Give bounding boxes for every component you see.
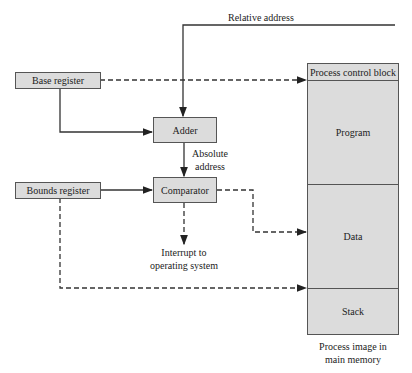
base-register-box: Base register (15, 72, 101, 89)
segment-program: Program (308, 80, 398, 184)
process-image-memory: Process control block Program Data Stack (307, 63, 399, 335)
comparator-box: Comparator (153, 177, 217, 203)
comparator-label: Comparator (161, 185, 209, 196)
adder-label: Adder (173, 125, 198, 136)
base-register-label: Base register (32, 75, 84, 86)
bounds-register-label: Bounds register (26, 185, 89, 196)
bounds-register-box: Bounds register (15, 182, 101, 199)
segment-stack: Stack (308, 288, 398, 334)
interrupt-label: Interrupt to operating system (134, 246, 234, 272)
memory-caption: Process image in main memory (307, 340, 399, 366)
absolute-address-label: Absolute address (188, 147, 232, 173)
adder-box: Adder (153, 117, 217, 143)
relative-address-label: Relative address (228, 11, 294, 24)
segment-data: Data (308, 184, 398, 288)
segment-process-control-block: Process control block (308, 64, 398, 80)
